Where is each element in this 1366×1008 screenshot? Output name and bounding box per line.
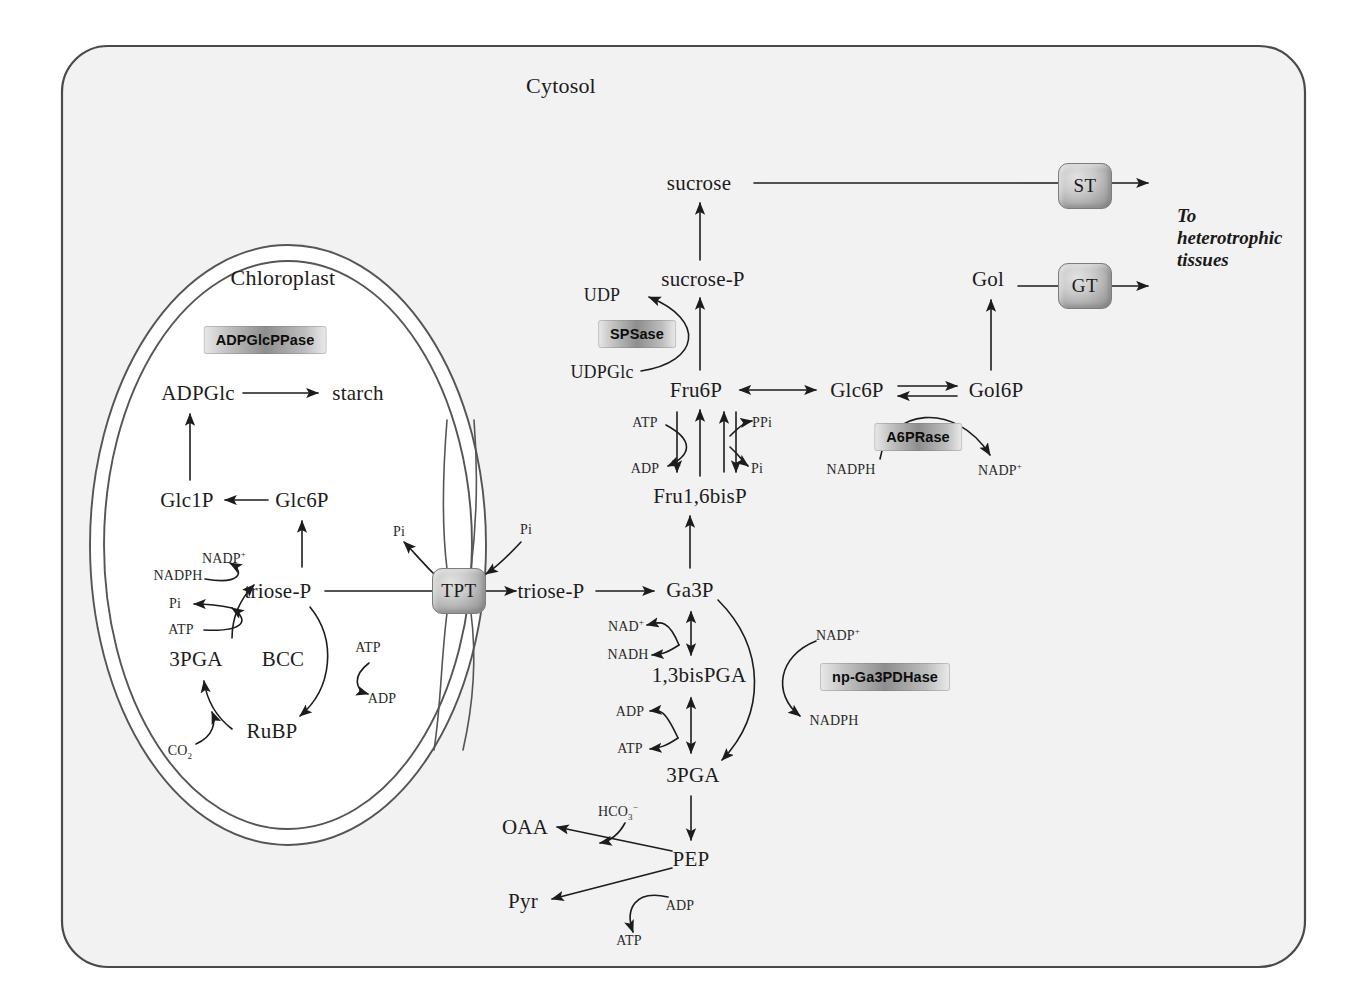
- chloroplast-label: Chloroplast: [231, 265, 336, 291]
- metabolite-sucrose: sucrose: [667, 171, 731, 196]
- cofactor-nadph-chloroplast: NADPH: [153, 568, 202, 584]
- metabolite-gol6p: Gol6P: [969, 378, 1024, 403]
- cofactor-co2: CO2: [168, 743, 193, 761]
- metabolite-rubp: RuBP: [247, 719, 298, 744]
- transporter-tpt[interactable]: TPT: [432, 568, 486, 614]
- cofactor-nadph-npga3pdhase: NADPH: [809, 713, 858, 729]
- cofactor-atp-chloroplast: ATP: [168, 622, 194, 638]
- metabolite-triose-p-cytosol: triose-P: [518, 579, 585, 604]
- cofactor-atp-bcc: ATP: [355, 640, 381, 656]
- cofactor-adp-pfk: ADP: [631, 461, 660, 477]
- cofactor-adp-bcc: ADP: [368, 691, 397, 707]
- cofactor-nad: NAD+: [608, 617, 644, 635]
- metabolite-3pga-chloroplast: 3PGA: [169, 647, 222, 672]
- enzyme-spsase: SPSase: [598, 320, 676, 348]
- metabolite-glc1p: Glc1P: [160, 488, 214, 513]
- cofactor-ppi: PPi: [752, 415, 772, 431]
- cofactor-nadp-chloroplast: NADP+: [202, 549, 246, 567]
- cofactor-pi-glycolysis: Pi: [751, 461, 763, 477]
- cofactor-adp-pk: ADP: [666, 898, 695, 914]
- metabolite-glc6p-cytosol: Glc6P: [830, 378, 884, 403]
- metabolite-udp: UDP: [584, 285, 621, 306]
- metabolite-oaa: OAA: [502, 815, 548, 840]
- cofactor-atp-pfk: ATP: [632, 415, 658, 431]
- calvin-cycle-label: BCC: [262, 647, 305, 672]
- enzyme-adpglcppase: ADPGlcPPase: [204, 326, 327, 354]
- metabolite-adpglc: ADPGlc: [161, 381, 235, 406]
- metabolite-triose-p-chloroplast: triose-P: [245, 579, 312, 604]
- metabolite-starch: starch: [332, 381, 383, 406]
- transporter-gt[interactable]: GT: [1058, 263, 1112, 309]
- cofactor-nadp-a6prase: NADP+: [978, 461, 1022, 479]
- metabolite-glc6p-chloroplast: Glc6P: [275, 488, 329, 513]
- enzyme-np-ga3pdhase: np-Ga3PDHase: [820, 663, 950, 691]
- transporter-gt-label: GT: [1072, 275, 1098, 297]
- cofactor-atp-pgk: ATP: [617, 741, 643, 757]
- cofactor-pi-tpt-right: Pi: [520, 522, 532, 538]
- metabolite-pyr: Pyr: [508, 889, 538, 914]
- metabolite-3pga-cytosol: 3PGA: [666, 763, 719, 788]
- cofactor-adp-pgk: ADP: [616, 704, 645, 720]
- metabolite-gol: Gol: [972, 267, 1004, 292]
- pathway-diagram: Cytosol Chloroplast To heterotrophic tis…: [0, 0, 1366, 1008]
- metabolite-13bispga: 1,3bisPGA: [652, 663, 747, 688]
- cofactor-pi-chloroplast: Pi: [169, 596, 181, 612]
- metabolite-sucrose-p: sucrose-P: [661, 267, 744, 292]
- cofactor-nadp-npga3pdhase: NADP+: [816, 626, 860, 644]
- cofactor-nadph-a6prase: NADPH: [826, 462, 875, 478]
- cofactor-atp-pk: ATP: [616, 933, 642, 949]
- transporter-tpt-label: TPT: [441, 580, 476, 602]
- metabolite-fru16bisp: Fru1,6bisP: [653, 484, 747, 509]
- metabolite-ga3p: Ga3P: [666, 578, 713, 603]
- metabolite-pep: PEP: [673, 847, 710, 872]
- transporter-st-label: ST: [1073, 175, 1096, 197]
- to-heterotrophic-tissues-label: To heterotrophic tissues: [1177, 205, 1303, 271]
- transporter-st[interactable]: ST: [1058, 163, 1112, 209]
- cofactor-bicarbonate: HCO3−: [598, 802, 638, 821]
- metabolite-fru6p: Fru6P: [670, 378, 722, 403]
- cytosol-label: Cytosol: [526, 73, 596, 99]
- cofactor-pi-tpt-left: Pi: [393, 524, 405, 540]
- cofactor-nadh: NADH: [607, 647, 648, 663]
- metabolite-udpglc: UDPGlc: [570, 362, 633, 383]
- enzyme-a6prase: A6PRase: [874, 423, 962, 451]
